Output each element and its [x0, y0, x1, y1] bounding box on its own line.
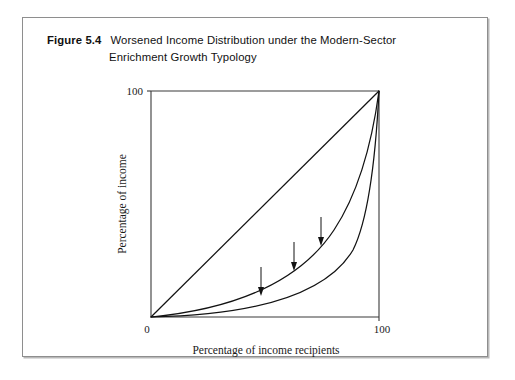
- x-axis-title: Percentage of income recipients: [192, 344, 340, 357]
- x-tick-label-0: 0: [144, 323, 150, 335]
- x-tick-label-100: 100: [374, 323, 391, 335]
- shift-arrow-3: [318, 217, 324, 246]
- y-tick-label-100: 100: [127, 85, 144, 97]
- lorenz-curve-chart: 100 0 100 Percentage of income Percentag…: [23, 18, 489, 358]
- chart-canvas: 100 0 100 Percentage of income Percentag…: [23, 18, 489, 358]
- y-axis-title: Percentage of income: [116, 154, 129, 254]
- figure-panel: Figure 5.4Worsened Income Distribution u…: [22, 17, 488, 357]
- series-line-of-equality: [151, 91, 379, 317]
- shift-arrow-2: [291, 242, 297, 271]
